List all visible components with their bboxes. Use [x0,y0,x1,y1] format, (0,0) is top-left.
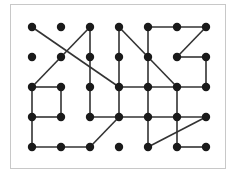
node [202,143,210,151]
node [144,113,152,121]
node [202,53,210,61]
node [115,23,123,31]
node [86,143,94,151]
node [57,23,65,31]
node [86,53,94,61]
node [115,143,123,151]
node [86,23,94,31]
node [202,113,210,121]
node [115,113,123,121]
node [144,23,152,31]
node [173,23,181,31]
node [28,113,36,121]
node [57,83,65,91]
grid-graph [0,0,239,173]
node [173,53,181,61]
edge [177,27,206,57]
node [202,23,210,31]
node [144,83,152,91]
node [28,143,36,151]
node [57,113,65,121]
node [115,53,123,61]
node [173,143,181,151]
node [144,53,152,61]
node [28,23,36,31]
node [57,143,65,151]
node [86,83,94,91]
node [57,53,65,61]
node [173,83,181,91]
node [28,83,36,91]
node [144,143,152,151]
node [115,83,123,91]
node [28,53,36,61]
edge [90,117,119,147]
node [86,113,94,121]
node [202,83,210,91]
edge [32,27,119,87]
node [173,113,181,121]
